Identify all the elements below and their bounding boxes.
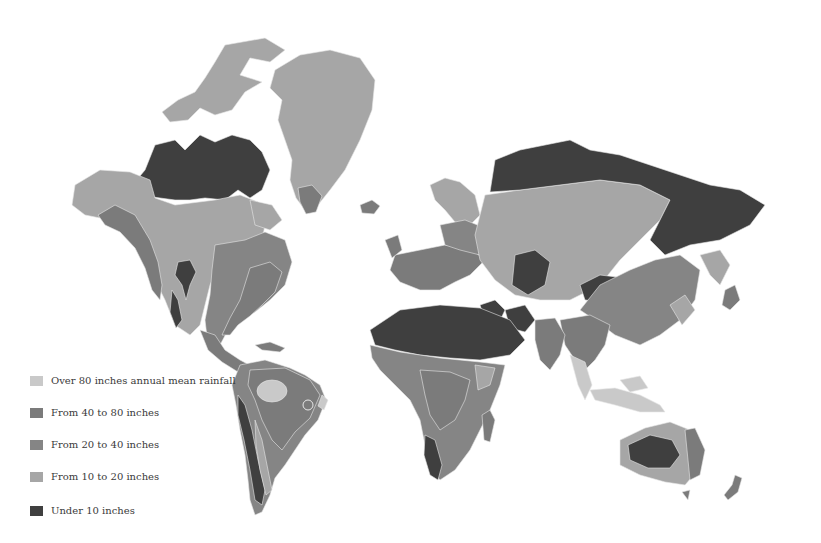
legend-item-20-to-40: From 20 to 40 inches (30, 439, 159, 450)
africa (370, 305, 525, 480)
legend-item-under-10: Under 10 inches (30, 505, 135, 516)
legend-swatch-20-to-40 (30, 440, 43, 450)
legend-swatch-40-to-80 (30, 408, 43, 418)
legend-swatch-under-10 (30, 506, 43, 516)
caribbean-islands (255, 342, 285, 352)
legend-item-10-to-20: From 10 to 20 inches (30, 471, 159, 482)
new-zealand (724, 475, 742, 500)
iceland (360, 200, 380, 214)
legend-item-40-to-80: From 40 to 80 inches (30, 407, 159, 418)
japan (722, 285, 740, 310)
legend-label-under-10: Under 10 inches (51, 505, 135, 516)
legend-swatch-10-to-20 (30, 472, 43, 482)
legend-swatch-over-80 (30, 376, 43, 386)
greenland (270, 50, 375, 210)
canadian-arctic-region (135, 135, 270, 200)
legend-label-over-80: Over 80 inches annual mean rainfall (51, 375, 236, 386)
world-rainfall-map (0, 0, 821, 543)
south-america (232, 360, 328, 515)
arctic-archipelago (162, 38, 285, 122)
legend-label-10-to-20: From 10 to 20 inches (51, 471, 159, 482)
legend-item-over-80: Over 80 inches annual mean rainfall (30, 375, 236, 386)
legend-label-20-to-40: From 20 to 40 inches (51, 439, 159, 450)
australia (620, 422, 705, 500)
legend-label-40-to-80: From 40 to 80 inches (51, 407, 159, 418)
